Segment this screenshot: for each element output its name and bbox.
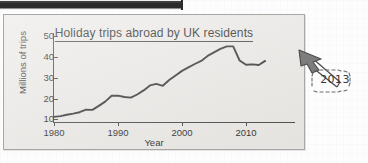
screenshot-root: Holiday trips abroad by UK residents 50 … [0,0,368,163]
annotation-label-2013: 2013 [318,73,352,86]
cut-off-black-bar-icon [0,0,183,10]
data-series-line [4,15,306,151]
plot-area: 50 40 30 20 10 1980 [4,15,306,151]
chart-panel: Holiday trips abroad by UK residents 50 … [3,14,305,150]
handdrawn-annotation: 2013 [296,46,368,112]
